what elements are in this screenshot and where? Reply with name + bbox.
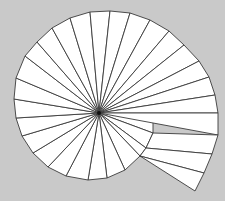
spiral-center-point (97, 111, 101, 115)
spiral-tail (140, 133, 218, 191)
spiral-diagram (0, 0, 225, 201)
